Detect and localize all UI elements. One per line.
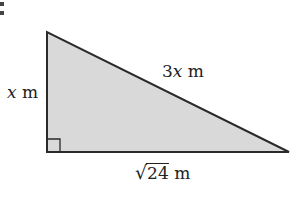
left-side-variable: x [7,82,17,102]
left-side-unit: m [22,82,38,102]
radicand: 24 [146,163,169,182]
hypotenuse-variable: x [173,61,183,81]
left-side-label: x m [7,84,38,101]
hypotenuse-coefficient: 3 [162,61,173,81]
triangle-shape [47,32,289,152]
bottom-side-unit: m [174,163,190,183]
bottom-side-label: √24 m [135,163,190,182]
hypotenuse-unit: m [188,61,204,81]
diagram-canvas: x m 3x m √24 m [0,0,308,200]
square-root-expression: √24 [135,163,169,182]
hypotenuse-label: 3x m [162,63,204,80]
